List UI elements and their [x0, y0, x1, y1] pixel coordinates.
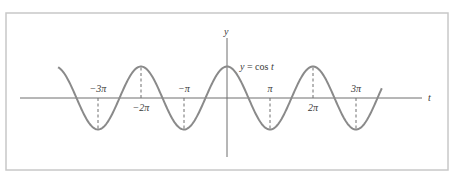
tick-label: −3π	[90, 83, 108, 94]
cosine-graph: −3π−2π−ππ2π3π t y y = cos t	[0, 0, 456, 176]
tick-label: π	[267, 83, 273, 94]
tick-label: 3π	[350, 83, 362, 94]
tick-label: −2π	[133, 102, 151, 113]
tick-label: 2π	[308, 102, 319, 113]
tick-label: −π	[178, 83, 191, 94]
t-axis-label: t	[428, 92, 431, 103]
y-axis-label: y	[223, 26, 229, 37]
function-label: y = cos t	[239, 61, 274, 72]
